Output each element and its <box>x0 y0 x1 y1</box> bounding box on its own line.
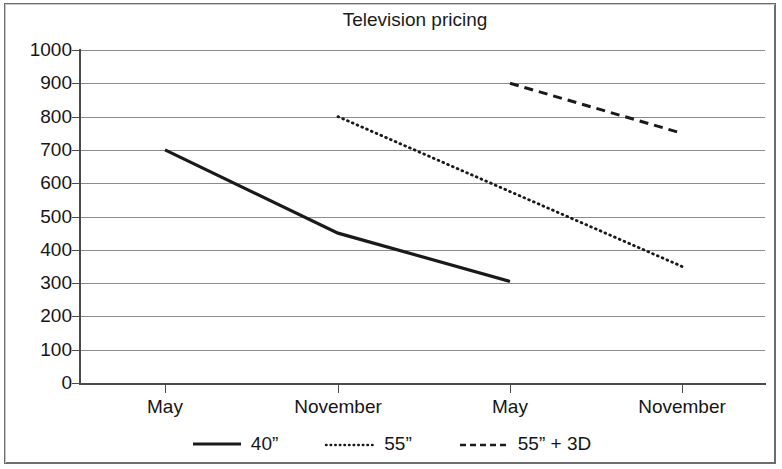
chart-figure: Television pricing 100090080070060050040… <box>0 0 782 469</box>
y-tick-label: 1000 <box>6 40 72 59</box>
gridline <box>80 283 765 284</box>
dotted-line-swatch <box>324 437 376 451</box>
dashed-line-swatch <box>458 437 510 451</box>
y-tick-mark <box>72 283 81 284</box>
y-tick-label: 300 <box>6 273 72 292</box>
gridline <box>80 150 765 151</box>
y-tick-mark <box>72 83 81 84</box>
y-tick-label: 800 <box>6 107 72 126</box>
chart-title: Television pricing <box>0 9 782 31</box>
y-tick-mark <box>72 350 81 351</box>
gridline <box>80 117 765 118</box>
legend-entry-40: 40” <box>191 434 278 454</box>
y-tick-label: 500 <box>6 207 72 226</box>
y-tick-label: 400 <box>6 240 72 259</box>
y-tick-mark <box>72 217 81 218</box>
x-axis-line <box>79 383 766 385</box>
legend-label-55-3d: 55” + 3D <box>518 434 591 454</box>
x-tick-mark <box>682 385 683 393</box>
x-tick-label: November <box>602 396 762 418</box>
legend-label-55: 55” <box>384 434 411 454</box>
gridline <box>80 50 765 51</box>
y-tick-mark <box>72 250 81 251</box>
y-tick-label: 200 <box>6 306 72 325</box>
y-tick-mark <box>72 117 81 118</box>
y-tick-mark <box>72 50 81 51</box>
x-tick-mark <box>338 385 339 393</box>
y-tick-label: 0 <box>6 373 72 392</box>
gridline <box>80 217 765 218</box>
x-tick-label: May <box>85 396 245 418</box>
legend-entry-55: 55” <box>324 434 411 454</box>
legend-entry-55-3d: 55” + 3D <box>458 434 591 454</box>
x-tick-label: November <box>258 396 418 418</box>
gridline <box>80 316 765 317</box>
gridline <box>80 350 765 351</box>
solid-line-swatch <box>191 437 243 451</box>
y-tick-mark <box>72 383 81 384</box>
y-tick-mark <box>72 316 81 317</box>
legend-label-40: 40” <box>251 434 278 454</box>
gridline <box>80 183 765 184</box>
y-tick-label: 900 <box>6 73 72 92</box>
y-tick-mark <box>72 150 81 151</box>
y-tick-label: 700 <box>6 140 72 159</box>
plot-area <box>80 50 765 383</box>
y-tick-mark <box>72 183 81 184</box>
y-tick-label: 600 <box>6 173 72 192</box>
y-axis-tick-labels: 10009008007006005004003002001000 <box>0 0 72 469</box>
gridline <box>80 83 765 84</box>
x-tick-mark <box>510 385 511 393</box>
x-tick-label: May <box>430 396 590 418</box>
y-tick-label: 100 <box>6 340 72 359</box>
chart-legend: 40” 55” 55” + 3D <box>0 434 782 454</box>
gridline <box>80 250 765 251</box>
x-tick-mark <box>165 385 166 393</box>
